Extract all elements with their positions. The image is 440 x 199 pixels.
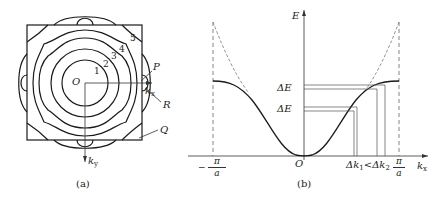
ky-arrow-icon bbox=[83, 156, 87, 162]
kx-label-a: kx bbox=[145, 86, 155, 99]
delta-k-comparison: Δk1<Δk2 bbox=[346, 160, 390, 173]
contour-5-corner-bl bbox=[27, 123, 48, 140]
delta-e-upper-label: ΔE bbox=[277, 83, 292, 93]
left-limit-label: − π a bbox=[200, 157, 226, 178]
kx-arrow-icon-b bbox=[422, 154, 428, 158]
point-label-q: Q bbox=[160, 125, 168, 135]
contour-label-3: 3 bbox=[111, 52, 117, 61]
origin-label-a: O bbox=[72, 77, 80, 87]
origin-label-b: O bbox=[295, 159, 303, 169]
band-curve bbox=[213, 81, 399, 156]
contour-label-1: 1 bbox=[94, 67, 100, 76]
kx-label-b: kx bbox=[417, 161, 427, 174]
contour-label-4: 4 bbox=[119, 45, 125, 54]
point-label-r: R bbox=[163, 100, 171, 110]
e-arrow-icon bbox=[302, 10, 306, 16]
point-label-p: P bbox=[153, 62, 160, 72]
contour-label-5: 5 bbox=[130, 34, 136, 43]
ky-label-a: ky bbox=[88, 156, 98, 169]
contour-5-corner-br bbox=[122, 123, 142, 140]
right-limit-label: π a bbox=[393, 157, 405, 178]
bump-top bbox=[77, 18, 93, 25]
bump-left bbox=[21, 75, 27, 91]
delta-e-lines bbox=[304, 85, 385, 156]
delta-e-lower-label: ΔE bbox=[277, 104, 292, 114]
caption-a: (a) bbox=[76, 179, 90, 189]
outer-arc-left bbox=[19, 54, 27, 112]
caption-b: (b) bbox=[297, 179, 311, 189]
e-axis-label: E bbox=[292, 11, 299, 21]
contour-label-2: 2 bbox=[103, 60, 109, 69]
contour-5-corner-tl bbox=[27, 25, 48, 42]
free-electron-curve bbox=[213, 22, 399, 92]
